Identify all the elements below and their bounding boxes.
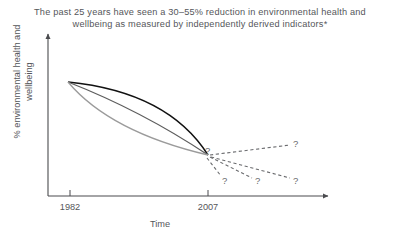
x-axis-tick-label-2007: 2007 bbox=[183, 202, 233, 212]
chart-figure: The past 25 years have seen a 30–55% red… bbox=[0, 0, 400, 240]
projection-line-steep-down bbox=[207, 158, 221, 176]
series-line-middle-indicator bbox=[68, 82, 208, 155]
projection-line-up bbox=[210, 145, 290, 155]
projection-line-mid-down bbox=[210, 157, 252, 178]
projection-label-up: ? bbox=[293, 138, 298, 149]
x-axis-tick-label-1982: 1982 bbox=[45, 202, 95, 212]
x-axis-label: Time bbox=[100, 219, 220, 229]
convergence-point-label: ? bbox=[205, 145, 210, 156]
projection-label-mid-down: ? bbox=[255, 175, 260, 186]
series-line-upper-indicator bbox=[68, 82, 208, 155]
projection-label-steep-down: ? bbox=[222, 175, 227, 186]
series-line-lower-indicator bbox=[68, 82, 208, 155]
projection-label-shallow-down: ? bbox=[293, 175, 298, 186]
